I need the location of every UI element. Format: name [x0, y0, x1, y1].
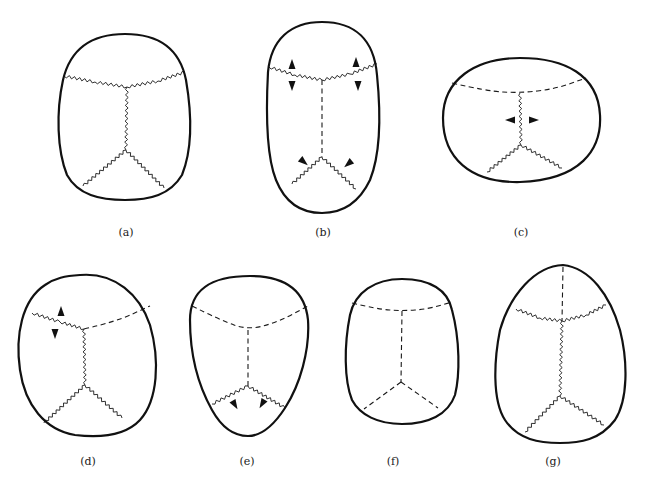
- growth-arrow-icon: [260, 398, 268, 408]
- lambdoid-left-suture-zigzag: [525, 396, 560, 432]
- panel-label: (c): [514, 226, 529, 239]
- growth-arrow-icon: [52, 329, 59, 339]
- panel-label: (f): [387, 455, 400, 468]
- panel-label: (b): [315, 226, 331, 239]
- panel-label: (a): [118, 226, 133, 239]
- skull-outline: [346, 279, 459, 424]
- lambdoid-right-suture-zigzag: [560, 396, 604, 425]
- lambdoid-left-suture-zigzag: [83, 150, 126, 186]
- lambdoid-left-suture-zigzag: [44, 385, 85, 423]
- lambdoid-right-suture-zigzag: [126, 150, 164, 188]
- skull-panel-a: (a): [58, 34, 190, 239]
- sagittal-suture-zigzag: [519, 93, 523, 145]
- panel-label: (d): [80, 455, 96, 468]
- panel-label: (g): [545, 455, 561, 468]
- skull-suture-figure: (a)(b)(c)(d)(e)(f)(g): [0, 0, 645, 486]
- growth-arrow-icon: [353, 57, 360, 67]
- lambdoid-right-suture-dashed: [401, 382, 438, 408]
- coronal-suture-dashed: [192, 306, 308, 328]
- skull-outline: [443, 58, 600, 182]
- skull-panel-e: (e): [190, 276, 308, 468]
- skull-panel-g: (g): [495, 265, 625, 468]
- growth-arrow-icon: [529, 117, 539, 124]
- sagittal-suture-zigzag: [125, 87, 129, 150]
- skull-outline: [267, 22, 379, 213]
- skull-outline: [18, 275, 156, 436]
- coronal-suture-zigzag: [64, 72, 185, 89]
- growth-arrow-icon: [289, 81, 296, 91]
- skull-panel-b: (b): [267, 22, 379, 239]
- growth-arrow-icon: [344, 158, 354, 167]
- lambdoid-right-suture-zigzag: [85, 385, 122, 418]
- growth-arrow-icon: [289, 59, 296, 69]
- panel-label: (e): [239, 455, 254, 468]
- coronal-right-suture-dashed: [84, 306, 150, 329]
- lambdoid-left-suture-zigzag: [487, 145, 521, 172]
- metopic-suture-dashed: [562, 267, 563, 321]
- growth-arrow-icon: [230, 399, 238, 409]
- skull-outline: [190, 276, 308, 436]
- lambdoid-right-suture-zigzag: [521, 145, 562, 168]
- sagittal-suture-zigzag: [559, 321, 564, 396]
- skull-panel-c: (c): [443, 58, 600, 239]
- lambdoid-left-suture-dashed: [364, 382, 401, 409]
- lambdoid-left-suture-zigzag: [292, 157, 322, 184]
- sagittal-suture-dashed: [401, 311, 402, 382]
- lambdoid-right-suture-zigzag: [248, 386, 285, 408]
- growth-arrow-icon: [355, 81, 362, 91]
- skull-panel-d: (d): [18, 275, 156, 468]
- growth-arrow-icon: [505, 117, 515, 124]
- coronal-suture-zigzag: [516, 305, 606, 322]
- skull-panel-f: (f): [346, 279, 459, 468]
- panels-root: (a)(b)(c)(d)(e)(f)(g): [18, 22, 625, 468]
- coronal-suture-dashed: [352, 302, 452, 311]
- growth-arrow-icon: [298, 156, 308, 165]
- growth-arrow-icon: [58, 306, 65, 316]
- coronal-suture-dashed: [452, 78, 586, 92]
- sagittal-suture-zigzag: [83, 329, 87, 385]
- lambdoid-left-suture-zigzag: [212, 386, 248, 404]
- coronal-suture-zigzag: [269, 64, 377, 81]
- skull-outline: [58, 34, 190, 200]
